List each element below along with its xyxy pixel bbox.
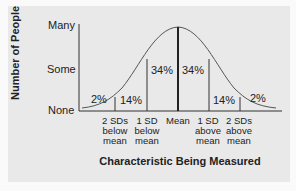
- pct-region-1: 2%: [91, 93, 107, 105]
- x-axis-label: Characteristic Being Measured: [80, 155, 280, 167]
- y-axis-label: Number of People: [9, 6, 21, 100]
- pct-region-3: 34%: [151, 64, 173, 76]
- pct-region-5: 14%: [213, 94, 235, 106]
- pct-region-4: 34%: [182, 64, 204, 76]
- y-tick-some: Some: [47, 63, 76, 75]
- x-tick-plus-2sd: 2 SDsabovemean: [219, 116, 259, 146]
- pct-region-2: 14%: [120, 94, 142, 106]
- y-tick-none: None: [48, 104, 74, 116]
- pct-region-6: 2%: [250, 92, 266, 104]
- y-tick-many: Many: [48, 19, 75, 31]
